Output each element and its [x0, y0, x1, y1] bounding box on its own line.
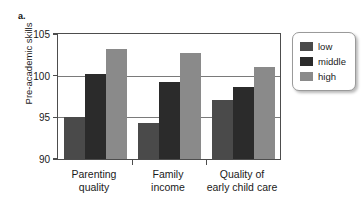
bar-group: [212, 34, 275, 159]
y-axis-title: Pre-academic skills: [23, 4, 34, 124]
legend-item[interactable]: low: [300, 40, 349, 53]
y-axis-tick: [53, 158, 58, 159]
bar: [64, 117, 85, 159]
legend-item[interactable]: high: [300, 70, 349, 83]
y-axis-tick-label: 90: [39, 154, 50, 165]
bar: [85, 74, 106, 159]
bar: [180, 53, 201, 159]
y-axis-tick-label: 105: [33, 29, 50, 40]
y-axis-tick: [53, 33, 58, 34]
x-axis-category-label-line: Quality of: [189, 168, 295, 181]
bar: [233, 87, 254, 160]
x-axis-category-label: Quality ofearly child care: [189, 168, 295, 193]
bar: [212, 100, 233, 159]
y-axis-tick: [53, 75, 58, 76]
legend: lowmiddlehigh: [292, 32, 356, 91]
bar-group: [138, 34, 201, 159]
bar: [138, 123, 159, 159]
x-axis-tick: [206, 159, 207, 165]
legend-item[interactable]: middle: [300, 55, 349, 68]
bar: [254, 67, 275, 159]
y-axis-tick-label: 95: [39, 112, 50, 123]
bar: [159, 82, 180, 159]
y-axis-tick-label: 100: [33, 70, 50, 81]
legend-item-label: middle: [318, 56, 346, 67]
y-axis-tick: [53, 117, 58, 118]
legend-item-label: low: [318, 41, 332, 52]
x-axis-tick: [132, 159, 133, 165]
legend-swatch-icon: [300, 72, 313, 81]
bar: [106, 49, 127, 159]
x-axis-category-label-line: early child care: [189, 181, 295, 194]
legend-swatch-icon: [300, 42, 313, 51]
figure-panel-a: a. Pre-academic skills 9095100105 Parent…: [0, 0, 363, 210]
legend-swatch-icon: [300, 57, 313, 66]
legend-item-label: high: [318, 71, 336, 82]
plot-area: 9095100105: [57, 33, 281, 160]
bar-group: [64, 34, 127, 159]
